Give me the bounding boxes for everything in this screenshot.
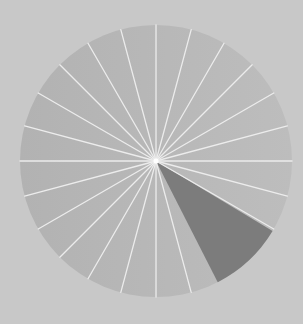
center-dot — [154, 159, 159, 164]
radial-diagram — [0, 0, 303, 324]
